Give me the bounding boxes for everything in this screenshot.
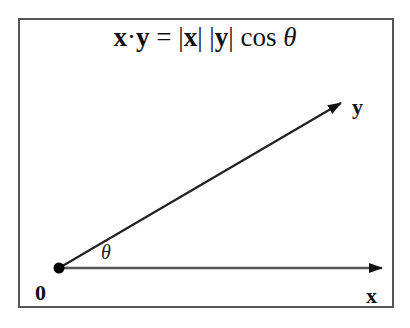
angle-theta-label: θ	[101, 241, 111, 264]
vector-y-label: y	[352, 94, 363, 120]
origin-label: 0	[35, 280, 46, 306]
vector-x-label: x	[366, 283, 377, 309]
origin-dot	[54, 263, 65, 274]
vector-diagram	[0, 0, 410, 328]
